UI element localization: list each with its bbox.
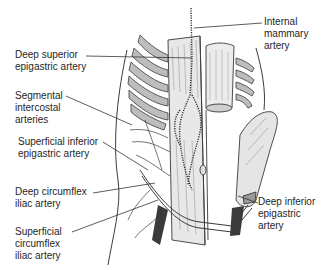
label-deep-superior-epigastric-artery: Deep superior epigastric artery [15,49,86,73]
label-segmental-intercostal-arteries: Segmental intercostal arteries [15,90,63,126]
right-ribcage [236,58,254,108]
rectus-abdominis [168,36,205,245]
anatomy-diagram: Internal mammary artery Deep superior ep… [0,0,332,270]
label-internal-mammary-artery: Internal mammary artery [264,16,332,52]
left-ribcage [128,35,168,130]
umbilicus [200,165,206,175]
reflected-rectus [200,43,234,240]
label-deep-inferior-epigastric-artery: Deep inferior epigastric artery [258,196,315,232]
label-superficial-inferior-epigastric-artery: Superficial inferior epigastric artery [18,136,98,160]
tram-flap [236,112,277,207]
label-superficial-circumflex-iliac-artery: Superficial circumflex iliac artery [15,226,62,262]
label-deep-circumflex-iliac-artery: Deep circumflex iliac artery [15,186,87,210]
